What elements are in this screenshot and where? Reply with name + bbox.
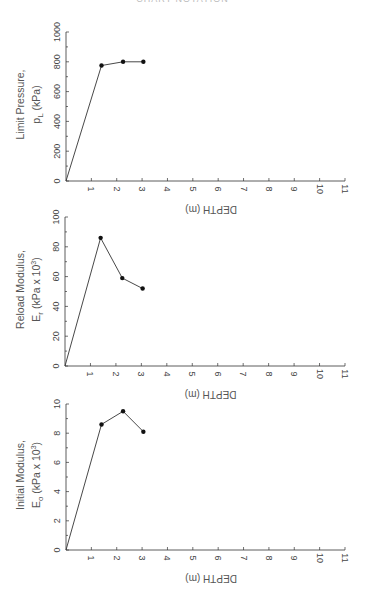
y-tick-label: 80 (51, 242, 61, 252)
y-axis-label-line1: Limit Pressure, (14, 69, 26, 139)
y-tick-label: 0 (52, 547, 62, 552)
y-tick-label: 400 (52, 114, 62, 129)
y-tick-label: 100 (51, 209, 61, 224)
y-tick-label: 6 (52, 460, 62, 465)
symbol: E (30, 315, 42, 322)
y-tick-label: 20 (51, 331, 61, 341)
y-tick-label: 8 (52, 431, 62, 436)
x-tick-label: 10 (315, 369, 325, 379)
x-tick-label: 1 (85, 371, 95, 376)
x-axis-label: DEPTH (m) (185, 389, 237, 400)
x-tick-label: 6 (213, 186, 223, 191)
x-tick-label: 9 (289, 555, 299, 560)
y-tick-label: 1000 (52, 22, 62, 42)
y-tick-label: 0 (51, 363, 61, 368)
x-tick-label: 2 (112, 186, 122, 191)
y-axis-label-line2: Eo (kPa x 103) (30, 442, 45, 508)
y-tick-label: 10 (52, 399, 62, 409)
x-tick-label: 5 (187, 371, 197, 376)
x-tick-label: 11 (340, 553, 350, 562)
x-tick-label: 3 (137, 555, 147, 560)
x-tick-label: 8 (264, 186, 274, 191)
y-tick-label: 0 (52, 178, 62, 183)
x-tick-label: 9 (289, 186, 299, 191)
charts-figure: 020040060080010001234567891011DEPTH (m)L… (0, 0, 365, 597)
x-tick-label: 3 (136, 371, 146, 376)
series-line (65, 238, 143, 366)
units-close: ) (30, 257, 42, 261)
x-tick-label: 6 (213, 371, 223, 376)
chart-panel-3: 02468101234567891011DEPTH (m)Initial Mod… (14, 399, 350, 584)
units: (kPa x 10 (30, 265, 42, 312)
y-tick-label: 4 (52, 489, 62, 494)
x-tick-label: 2 (112, 555, 122, 560)
x-tick-label: 7 (239, 186, 249, 191)
x-tick-label: 10 (315, 553, 325, 563)
x-tick-label: 8 (264, 371, 274, 376)
x-tick-label: 3 (137, 186, 147, 191)
x-tick-label: 1 (86, 555, 96, 560)
x-tick-label: 5 (188, 186, 198, 191)
x-tick-label: 4 (162, 555, 172, 560)
x-tick-label: 7 (239, 555, 249, 560)
x-tick-label: 4 (162, 186, 172, 191)
x-tick-label: 1 (86, 186, 96, 191)
x-tick-label: 10 (315, 184, 325, 194)
y-axis-label-line1: Initial Modulus, (14, 440, 26, 510)
y-axis-label-line2: pL (kPa) (30, 85, 45, 123)
data-point (121, 60, 125, 64)
y-tick-label: 600 (52, 84, 62, 99)
series-line (66, 62, 143, 181)
x-tick-label: 4 (162, 371, 172, 376)
chart-panel-1: 020040060080010001234567891011DEPTH (m)L… (14, 22, 350, 215)
units: (kPa x 10 (30, 449, 42, 496)
x-axis-label: DEPTH (m) (185, 573, 237, 584)
data-point (140, 286, 144, 290)
y-tick-label: 800 (52, 54, 62, 69)
symbol: E (30, 501, 42, 508)
x-tick-label: 11 (340, 184, 350, 193)
x-tick-label: 5 (188, 555, 198, 560)
data-point (99, 63, 103, 67)
data-point (99, 422, 103, 426)
data-point (98, 236, 102, 240)
x-tick-label: 6 (213, 555, 223, 560)
data-point (141, 60, 145, 64)
chart-panel-2: 0204060801001234567891011DEPTH (m)Reload… (14, 209, 350, 399)
y-tick-label: 40 (51, 301, 61, 311)
y-tick-label: 2 (52, 518, 62, 523)
x-tick-label: 2 (111, 371, 121, 376)
y-tick-label: 200 (52, 144, 62, 159)
x-tick-label: 8 (264, 555, 274, 560)
x-tick-label: 11 (340, 369, 350, 378)
y-axis-label-line1: Reload Modulus, (14, 250, 26, 329)
data-point (120, 276, 124, 280)
x-axis-label: DEPTH (m) (185, 204, 237, 215)
units-close: ) (30, 442, 42, 446)
y-tick-label: 60 (51, 272, 61, 282)
series-line (66, 411, 143, 550)
data-point (141, 430, 145, 434)
x-tick-label: 7 (238, 371, 248, 376)
units: (kPa) (30, 85, 42, 113)
x-tick-label: 9 (289, 371, 299, 376)
y-axis-label-line2: Er (kPa x 103) (30, 257, 45, 321)
data-point (121, 409, 125, 413)
